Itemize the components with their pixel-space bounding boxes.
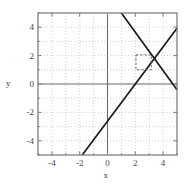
x-axis-title: x bbox=[104, 171, 109, 180]
y-tick-label: -2 bbox=[18, 108, 34, 117]
x-tick-label: 2 bbox=[128, 159, 142, 168]
x-tick-label: 0 bbox=[101, 159, 115, 168]
y-tick-label: 0 bbox=[18, 80, 34, 89]
x-tick-label: 4 bbox=[156, 159, 170, 168]
y-tick-label: 4 bbox=[18, 23, 34, 32]
x-tick-label: -2 bbox=[73, 159, 87, 168]
y-axis-title: y bbox=[6, 79, 11, 88]
x-tick-label: -4 bbox=[45, 159, 59, 168]
figure: -4-2024 -4-2024 x y bbox=[0, 0, 191, 185]
y-tick-label: 2 bbox=[18, 52, 34, 61]
y-tick-label: -4 bbox=[18, 137, 34, 146]
